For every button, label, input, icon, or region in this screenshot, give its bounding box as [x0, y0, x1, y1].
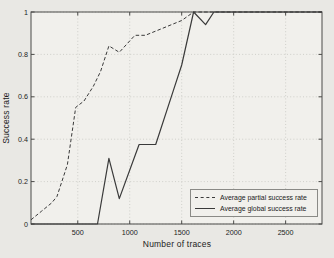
svg-text:1000: 1000 — [122, 228, 138, 237]
legend-label-global: Average global success rate — [220, 205, 306, 212]
svg-text:0: 0 — [24, 220, 28, 229]
y-axis-label: Success rate — [1, 68, 11, 168]
legend-entry-global: Average global success rate — [195, 203, 313, 214]
chart-plot: 00.20.40.60.815001000150020002500 — [0, 0, 334, 258]
legend: Average partial success rate Average glo… — [190, 189, 318, 217]
chart-figure: 00.20.40.60.815001000150020002500 Succes… — [0, 0, 334, 258]
svg-text:2000: 2000 — [226, 228, 242, 237]
svg-text:500: 500 — [72, 228, 84, 237]
svg-text:1: 1 — [24, 8, 28, 17]
legend-label-partial: Average partial success rate — [220, 194, 307, 201]
svg-text:0.4: 0.4 — [18, 135, 28, 144]
legend-entry-partial: Average partial success rate — [195, 192, 313, 203]
svg-text:0.2: 0.2 — [18, 177, 28, 186]
svg-text:0.6: 0.6 — [18, 92, 28, 101]
svg-text:0.8: 0.8 — [18, 50, 28, 59]
x-axis-label: Number of traces — [0, 239, 334, 249]
dashed-line-icon — [195, 197, 215, 198]
svg-text:2500: 2500 — [278, 228, 294, 237]
svg-text:1500: 1500 — [174, 228, 190, 237]
solid-line-icon — [195, 208, 215, 209]
